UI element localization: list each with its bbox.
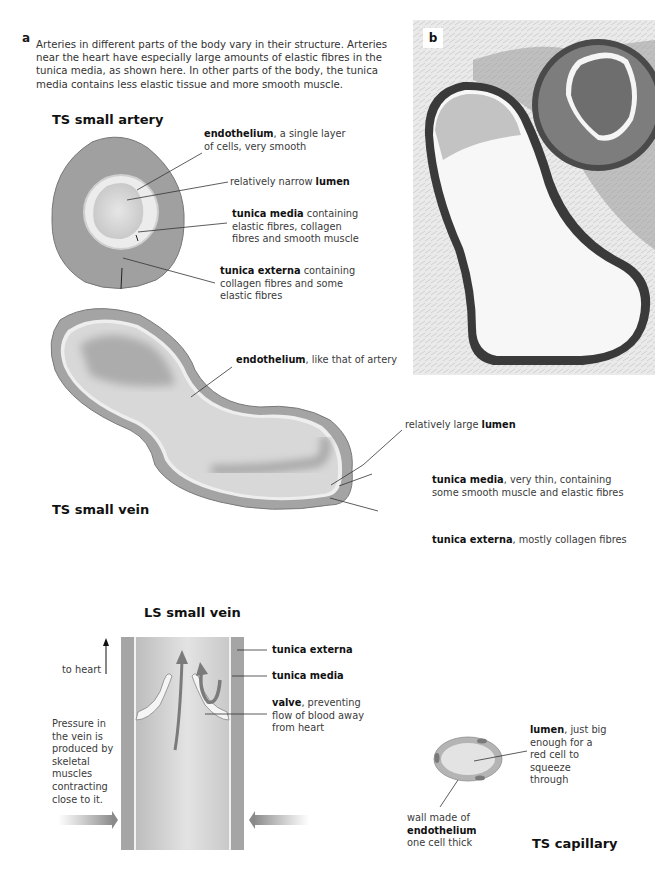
vein-label-endothelium: endothelium, like that of artery	[236, 354, 436, 367]
ls-vein-title: LS small vein	[144, 605, 241, 620]
capillary-label-wall: wall made of endothelium one cell thick	[407, 812, 487, 850]
capillary-diagram	[434, 737, 502, 781]
pressure-note: Pressure in the vein is produced by skel…	[52, 718, 114, 806]
capillary-title: TS capillary	[532, 836, 618, 851]
vein-title: TS small vein	[52, 502, 149, 517]
ls-label-valve: valve, preventing flow of blood away fro…	[272, 697, 364, 735]
vein-label-tunica-externa: tunica externa, mostly collagen fibres	[432, 534, 652, 547]
to-heart-label: to heart	[62, 664, 101, 677]
ls-label-tunica-externa: tunica externa	[272, 644, 353, 657]
artery-label-endothelium: endothelium, a single layer of cells, ve…	[204, 128, 354, 153]
vein-label-lumen: relatively large lumen	[405, 419, 605, 432]
vein-diagram	[51, 309, 352, 510]
artery-title: TS small artery	[52, 112, 163, 127]
ls-label-tunica-media: tunica media	[272, 670, 344, 683]
artery-label-tunica-media: tunica media containing elastic fibres, …	[232, 208, 372, 246]
artery-diagram	[52, 137, 184, 289]
artery-label-tunica-externa: tunica externa containing collagen fibre…	[220, 265, 360, 303]
capillary-label-lumen: lumen, just big enough for a red cell to…	[530, 724, 610, 787]
vein-label-tunica-media: tunica media, very thin, containing some…	[432, 474, 632, 499]
artery-label-lumen: relatively narrow lumen	[230, 176, 400, 189]
